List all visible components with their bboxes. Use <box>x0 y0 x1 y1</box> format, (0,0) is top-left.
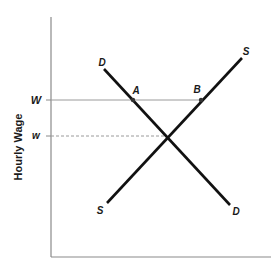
supply-label-bottom: S <box>97 205 104 216</box>
y-axis-title: Hourly Wage <box>12 114 24 181</box>
demand-label-bottom: D <box>232 206 239 217</box>
point-A-label: A <box>131 85 139 96</box>
point-A-marker <box>131 98 135 102</box>
point-B-marker <box>199 98 203 102</box>
point-B-label: B <box>193 84 200 95</box>
wage-W-label: W <box>31 94 43 106</box>
wage-w-label: w <box>32 130 41 141</box>
wage-diagram: Hourly Wage W w D D S S A B <box>0 0 271 270</box>
supply-curve <box>107 58 242 203</box>
demand-label-top: D <box>98 57 105 68</box>
supply-label-top: S <box>243 46 250 57</box>
